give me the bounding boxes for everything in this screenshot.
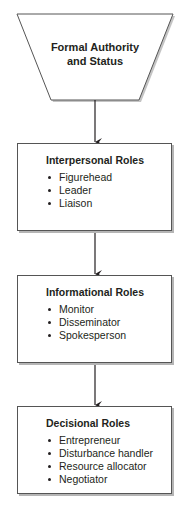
box-title: Interpersonal Roles — [46, 154, 144, 167]
bullet-icon — [48, 321, 51, 324]
bullet-icon — [48, 189, 51, 192]
list-item: Disturbance handler — [48, 447, 153, 460]
list-item-label: Entrepreneur — [59, 434, 120, 446]
list-item: Disseminator — [48, 316, 126, 329]
list-item: Resource allocator — [48, 460, 153, 473]
interpersonal-roles-box: Interpersonal Roles Figurehead Leader Li… — [17, 143, 172, 231]
list-item: Entrepreneur — [48, 434, 153, 447]
list-item: Negotiator — [48, 473, 153, 486]
formal-authority-label: Formal Authority and Status — [17, 40, 173, 68]
list-item-label: Liaison — [59, 197, 92, 209]
decisional-roles-box: Decisional Roles Entrepreneur Disturbanc… — [17, 406, 172, 494]
bullet-icon — [48, 176, 51, 179]
bullet-icon — [48, 308, 51, 311]
list-item-label: Disseminator — [59, 316, 120, 328]
bullet-icon — [48, 202, 51, 205]
list-item: Liaison — [48, 197, 112, 210]
box-title: Informational Roles — [46, 286, 144, 299]
role-list: Entrepreneur Disturbance handler Resourc… — [48, 434, 153, 486]
list-item-label: Monitor — [59, 303, 94, 315]
list-item-label: Spokesperson — [59, 329, 126, 341]
bullet-icon — [48, 452, 51, 455]
formal-authority-line-2: and Status — [17, 54, 173, 68]
formal-authority-line-1: Formal Authority — [17, 40, 173, 54]
list-item: Leader — [48, 184, 112, 197]
list-item-label: Figurehead — [59, 171, 112, 183]
informational-roles-box: Informational Roles Monitor Disseminator… — [17, 275, 172, 363]
box-title: Decisional Roles — [46, 417, 130, 430]
list-item-label: Disturbance handler — [59, 447, 153, 459]
list-item: Monitor — [48, 303, 126, 316]
list-item: Figurehead — [48, 171, 112, 184]
list-item-label: Leader — [59, 184, 92, 196]
role-list: Monitor Disseminator Spokesperson — [48, 303, 126, 342]
list-item-label: Resource allocator — [59, 460, 147, 472]
list-item: Spokesperson — [48, 329, 126, 342]
role-list: Figurehead Leader Liaison — [48, 171, 112, 210]
bullet-icon — [48, 478, 51, 481]
bullet-icon — [48, 465, 51, 468]
list-item-label: Negotiator — [59, 473, 107, 485]
bullet-icon — [48, 334, 51, 337]
bullet-icon — [48, 439, 51, 442]
